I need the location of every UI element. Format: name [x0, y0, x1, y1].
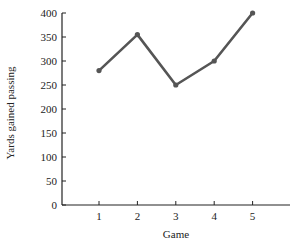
- y-tick-label: 250: [41, 79, 58, 91]
- y-tick-label: 50: [46, 175, 58, 187]
- y-tick-label: 100: [41, 151, 58, 163]
- y-tick-label: 350: [41, 31, 58, 43]
- x-tick-label: 1: [96, 210, 102, 222]
- y-tick-label: 200: [41, 103, 58, 115]
- series-line: [99, 13, 253, 85]
- y-axis-title: Yards gained passing: [4, 66, 16, 159]
- y-axis: 050100150200250300350400: [41, 7, 67, 211]
- x-tick-label: 5: [250, 210, 256, 222]
- y-tick-label: 400: [41, 7, 58, 19]
- x-tick-label: 2: [135, 210, 141, 222]
- x-axis-title: Game: [163, 228, 189, 240]
- data-series: [96, 10, 255, 87]
- data-point: [212, 58, 217, 63]
- data-point: [135, 32, 140, 37]
- y-tick-label: 300: [41, 55, 58, 67]
- data-point: [173, 82, 178, 87]
- data-point: [96, 68, 101, 73]
- y-tick-label: 150: [41, 127, 58, 139]
- x-tick-label: 3: [173, 210, 179, 222]
- line-chart: 050100150200250300350400 12345 Game Yard…: [0, 0, 302, 246]
- x-tick-label: 4: [211, 210, 217, 222]
- data-point: [250, 10, 255, 15]
- y-tick-label: 0: [52, 199, 58, 211]
- x-axis: 12345: [62, 201, 290, 222]
